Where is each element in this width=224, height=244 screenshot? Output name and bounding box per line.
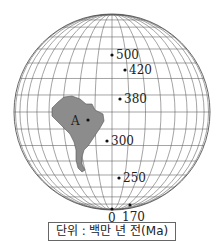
pole-point-420 bbox=[123, 68, 126, 71]
point-label-420: 420 bbox=[129, 64, 152, 76]
continent-label-a: A bbox=[71, 115, 80, 127]
continent-south-america bbox=[52, 96, 104, 172]
pole-point-170 bbox=[128, 203, 131, 206]
unit-legend: 단위 : 백만 년 전(Ma) bbox=[48, 222, 176, 241]
point-label-250: 250 bbox=[123, 172, 146, 184]
globe-diagram bbox=[0, 0, 224, 244]
pole-point-250 bbox=[117, 176, 120, 179]
point-label-500: 500 bbox=[116, 49, 139, 61]
pole-point-380 bbox=[118, 97, 121, 100]
pole-point-500 bbox=[110, 53, 113, 56]
point-label-300: 300 bbox=[111, 135, 134, 147]
pole-point-300 bbox=[105, 139, 108, 142]
graticule bbox=[14, 14, 210, 210]
point-label-380: 380 bbox=[124, 93, 147, 105]
point-a bbox=[86, 118, 89, 121]
